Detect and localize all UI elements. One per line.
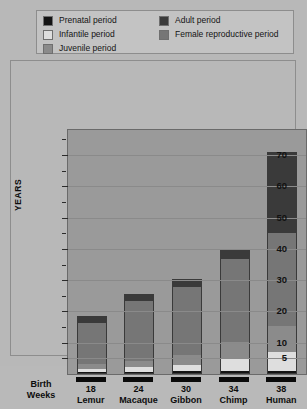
bar-segment-female-reproductive-period [221, 259, 249, 342]
y-tick-major [62, 218, 68, 219]
y-tick-major [62, 280, 68, 281]
x-axis-tick-block [123, 377, 153, 382]
x-axis-species-name: Gibbon [160, 395, 212, 406]
y-tick-minor [62, 139, 66, 140]
bar-gibbon[interactable] [172, 279, 202, 374]
y-tick-label: 5 [247, 352, 287, 363]
x-axis-species-name: Human [255, 395, 307, 406]
y-tick-minor [62, 265, 66, 266]
y-tick-label: 40 [247, 242, 287, 253]
y-tick-major [62, 186, 68, 187]
y-tick-minor [62, 296, 66, 297]
legend-item-prenatal: Prenatal period [43, 14, 117, 27]
y-tick-label: 30 [247, 274, 287, 285]
chart-container: YEARS 18Lemur24Macaque30Gibbon34Chimp38H… [10, 60, 296, 356]
y-tick-minor [62, 171, 66, 172]
x-axis-category-chimp: 34Chimp [208, 377, 260, 406]
y-tick-label: 20 [247, 305, 287, 316]
y-tick-label: 10 [247, 336, 287, 347]
x-axis-tick-block [171, 377, 201, 382]
legend-item-juvenile: Juvenile period [43, 42, 117, 55]
x-axis-tick-block [266, 377, 296, 382]
bar-segment-infantile-period [173, 365, 201, 372]
legend-label-juvenile: Juvenile period [59, 43, 116, 54]
y-axis [11, 129, 67, 375]
legend-swatch-infantile [43, 30, 53, 40]
bar-segment-juvenile-period [221, 342, 249, 359]
y-tick-label: 50 [247, 211, 287, 222]
y-tick-minor [62, 233, 66, 234]
y-tick-label: 60 [247, 180, 287, 191]
y-tick-major [62, 155, 68, 156]
x-axis-category-macaque: 24Macaque [112, 377, 164, 406]
bar-segment-adult-period [221, 250, 249, 259]
x-axis-corner-label-line2: Weeks [17, 390, 65, 401]
legend-item-adult: Adult period [159, 14, 278, 27]
legend-label-adult: Adult period [175, 15, 220, 26]
legend-swatch-female-reproductive [159, 30, 169, 40]
bar-segment-female-reproductive-period [173, 287, 201, 355]
legend-label-prenatal: Prenatal period [59, 15, 117, 26]
x-axis-tick-block [219, 377, 249, 382]
bar-segment-female-reproductive-period [125, 301, 153, 360]
y-tick-minor [62, 202, 66, 203]
bar-segment-prenatal-period [173, 371, 201, 373]
y-tick-label: 70 [247, 149, 287, 160]
legend: Prenatal period Infantile period Juvenil… [36, 10, 294, 54]
x-axis-corner-label: Birth Weeks [17, 379, 65, 401]
x-axis-species-name: Lemur [65, 395, 117, 406]
bar-segment-prenatal-period [125, 372, 153, 373]
x-axis-gestation-weeks: 24 [112, 384, 164, 395]
legend-column-right: Adult period Female reproductive period [159, 14, 278, 42]
legend-label-female-reproductive: Female reproductive period [175, 29, 278, 40]
legend-item-infantile: Infantile period [43, 28, 117, 41]
legend-label-infantile: Infantile period [59, 29, 115, 40]
x-axis-category-human: 38Human [255, 377, 307, 406]
y-tick-major [62, 249, 68, 250]
legend-swatch-adult [159, 16, 169, 26]
bar-segment-prenatal-period [268, 371, 296, 373]
bar-segment-juvenile-period [173, 355, 201, 364]
x-axis-gestation-weeks: 18 [65, 384, 117, 395]
x-axis-gestation-weeks: 38 [255, 384, 307, 395]
y-tick-minor [62, 327, 66, 328]
y-tick-major [62, 311, 68, 312]
x-axis-tick-block [76, 377, 106, 382]
bar-lemur[interactable] [77, 316, 107, 374]
x-axis-category-lemur: 18Lemur [65, 377, 117, 406]
y-tick-major [62, 343, 68, 344]
legend-item-female-reproductive: Female reproductive period [159, 28, 278, 41]
x-axis: 18Lemur24Macaque30Gibbon34Chimp38Human [67, 377, 307, 409]
x-axis-corner-label-line1: Birth [17, 379, 65, 390]
x-axis-category-gibbon: 30Gibbon [160, 377, 212, 406]
x-axis-gestation-weeks: 34 [208, 384, 260, 395]
legend-swatch-prenatal [43, 16, 53, 26]
bar-macaque[interactable] [124, 294, 154, 374]
x-axis-species-name: Chimp [208, 395, 260, 406]
x-axis-species-name: Macaque [112, 395, 164, 406]
bar-segment-prenatal-period [78, 372, 106, 373]
y-tick-major [62, 358, 68, 359]
legend-swatch-juvenile [43, 44, 53, 54]
bar-segment-prenatal-period [221, 371, 249, 373]
bar-segment-infantile-period [221, 359, 249, 371]
x-axis-gestation-weeks: 30 [160, 384, 212, 395]
legend-column-left: Prenatal period Infantile period Juvenil… [43, 14, 117, 56]
